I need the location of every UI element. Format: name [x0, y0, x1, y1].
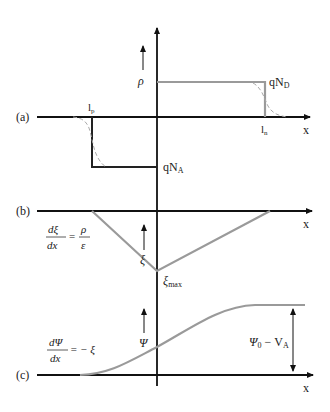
donor-label: qND [269, 75, 290, 90]
panel-a-label: (a) [16, 110, 29, 124]
donor-charge-profile [157, 82, 265, 117]
svg-text:=: = [69, 230, 75, 242]
panel-b-label: (b) [16, 204, 30, 218]
electric-field-profile [92, 211, 270, 271]
acceptor-label: qNA [163, 160, 184, 175]
psi-label: Ψ [139, 336, 149, 350]
gauss-law-equation: dξ dx = ρ ε [46, 223, 90, 251]
panel-b: (b) x ξ ξmax dξ dx = ρ ε [16, 204, 312, 289]
xi-label: ξ [140, 253, 146, 267]
barrier-height-label: Ψ0 − VA [249, 335, 289, 350]
svg-text:dx: dx [47, 239, 58, 251]
svg-text:dx: dx [50, 352, 61, 364]
svg-text:dΨ: dΨ [49, 336, 64, 348]
panel-c-x-label: x [303, 381, 309, 395]
rho-label: ρ [137, 74, 144, 88]
ln-label: ln [261, 123, 268, 137]
panel-a: (a) x ρ qND ln qNA lp [16, 46, 310, 175]
xi-max-label: ξmax [163, 274, 182, 289]
panel-a-x-label: x [303, 123, 309, 137]
acceptor-dashed-profile [73, 117, 106, 167]
lp-label: lp [88, 101, 95, 115]
svg-text:dξ: dξ [48, 223, 59, 236]
panel-c: (c) x Ψ Ψ0 − VA dΨ dx = − ξ [16, 305, 313, 395]
pn-junction-diagram: (a) x ρ qND ln qNA lp (b) x ξ ξmax dξ d [0, 0, 330, 412]
potential-equation: dΨ dx = − ξ [47, 336, 95, 364]
svg-text:= − ξ: = − ξ [70, 343, 95, 356]
acceptor-charge-profile [92, 117, 157, 167]
svg-text:ε: ε [81, 239, 86, 251]
svg-text:ρ: ρ [80, 223, 86, 235]
panel-c-label: (c) [16, 368, 29, 382]
panel-b-x-label: x [303, 217, 309, 231]
